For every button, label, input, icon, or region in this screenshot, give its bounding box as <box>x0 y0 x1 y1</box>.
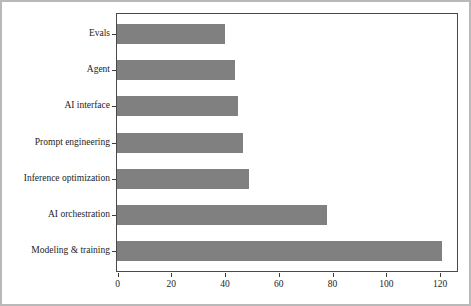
y-axis-tick-0 <box>112 34 116 35</box>
bars-layer <box>117 14 459 273</box>
x-axis-tick-100 <box>386 273 387 277</box>
x-axis-tick-label-120: 120 <box>420 280 460 290</box>
chart-area: Evals Agent AI interface Prompt engineer… <box>2 2 469 304</box>
x-axis-tick-label-80: 80 <box>313 280 353 290</box>
x-axis-tick-0 <box>118 273 119 277</box>
bar-chart-screenshot: Evals Agent AI interface Prompt engineer… <box>0 0 471 306</box>
x-axis-tick-20 <box>171 273 172 277</box>
x-axis-tick-60 <box>279 273 280 277</box>
x-axis-tick-40 <box>225 273 226 277</box>
bar-ai-interface <box>117 96 238 116</box>
y-axis-label-prompt-engineering: Prompt engineering <box>2 138 110 148</box>
y-axis-label-agent: Agent <box>2 65 110 75</box>
y-axis-tick-5 <box>112 215 116 216</box>
x-axis-tick-label-0: 0 <box>98 280 138 290</box>
x-axis-tick-80 <box>333 273 334 277</box>
y-axis-tick-6 <box>112 251 116 252</box>
x-axis-tick-label-20: 20 <box>151 280 191 290</box>
bar-agent <box>117 60 235 80</box>
y-axis-tick-4 <box>112 179 116 180</box>
bar-modeling-training <box>117 241 442 261</box>
y-axis-label-ai-orchestration: AI orchestration <box>2 210 110 220</box>
x-axis-tick-label-100: 100 <box>366 280 406 290</box>
y-axis-tick-3 <box>112 143 116 144</box>
x-axis-tick-label-40: 40 <box>205 280 245 290</box>
y-axis-label-ai-interface: AI interface <box>2 101 110 111</box>
y-axis-tick-1 <box>112 70 116 71</box>
x-axis-tick-120 <box>440 273 441 277</box>
bar-ai-orchestration <box>117 205 327 225</box>
y-axis-tick-2 <box>112 106 116 107</box>
bar-prompt-engineering <box>117 133 243 153</box>
y-axis-label-inference-optimization: Inference optimization <box>2 174 110 184</box>
y-axis-label-modeling-training: Modeling & training <box>2 246 110 256</box>
bar-evals <box>117 24 225 44</box>
bar-inference-optimization <box>117 169 249 189</box>
x-axis-tick-label-60: 60 <box>259 280 299 290</box>
y-axis-label-evals: Evals <box>2 29 110 39</box>
